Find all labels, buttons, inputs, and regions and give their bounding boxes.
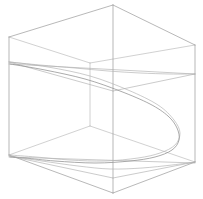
wireframe-plot-canvas bbox=[0, 0, 203, 199]
plot-root bbox=[0, 0, 203, 199]
plot-background bbox=[0, 0, 203, 199]
